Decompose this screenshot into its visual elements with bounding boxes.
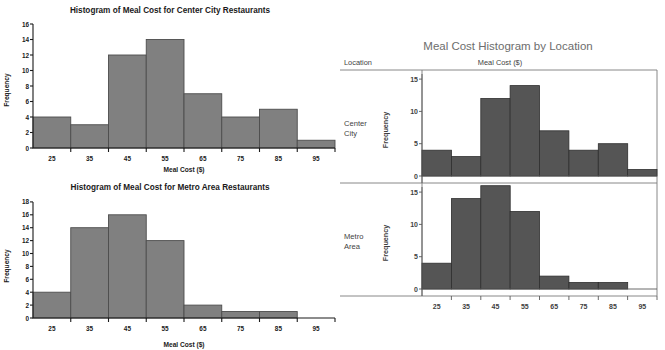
- bar-65: [540, 276, 569, 289]
- y-tick-labels: 0 2 4 6 8 10 12 14 16: [22, 21, 30, 152]
- y-tick-4: 4: [25, 289, 29, 296]
- y-tick-15: 15: [410, 189, 418, 196]
- bar-25: [422, 263, 451, 289]
- x-tick-85: 85: [275, 155, 283, 162]
- bar-95: [297, 140, 335, 148]
- x-tick-85: 85: [609, 303, 617, 310]
- chart-paneled-by-location: Meal Cost Histogram by Location Location…: [340, 30, 665, 315]
- bar-55: [146, 241, 184, 318]
- bar-45: [109, 215, 147, 318]
- y-axis-label: Frequency: [3, 249, 11, 283]
- bar-55: [146, 40, 184, 149]
- chart-title: Histogram of Meal Cost for Center City R…: [70, 6, 271, 15]
- bar-65: [184, 305, 222, 318]
- bar-95: [628, 170, 657, 177]
- y-axis-label: Frequency: [381, 225, 390, 261]
- y-tick-0: 0: [25, 315, 29, 322]
- bar-75: [222, 117, 260, 148]
- y-tick-0: 0: [25, 145, 29, 152]
- x-tick-marks: [71, 148, 335, 152]
- y-tick-8: 8: [25, 263, 29, 270]
- y-tick-6: 6: [25, 98, 29, 105]
- y-tick-0: 0: [414, 286, 418, 293]
- y-tick-16: 16: [22, 21, 30, 28]
- bars: [33, 40, 335, 149]
- x-tick-25: 25: [48, 155, 56, 162]
- x-tick-95: 95: [313, 325, 321, 332]
- x-tick-75: 75: [580, 303, 588, 310]
- y-tick-14: 14: [22, 224, 30, 231]
- metro-area-histogram-svg: Histogram of Meal Cost for Metro Area Re…: [0, 178, 340, 350]
- y-tick-10: 10: [22, 250, 30, 257]
- panel-label-line1: Metro: [344, 232, 363, 241]
- y-axis-label: Frequency: [3, 73, 11, 107]
- x-tick-35: 35: [462, 303, 470, 310]
- x-tick-75: 75: [237, 325, 245, 332]
- screenshot-root: Histogram of Meal Cost for Center City R…: [0, 0, 665, 350]
- x-tick-85: 85: [275, 325, 283, 332]
- x-tick-65: 65: [199, 325, 207, 332]
- bar-25: [422, 150, 451, 176]
- y-tick-2: 2: [25, 129, 29, 136]
- x-tick-95: 95: [638, 303, 646, 310]
- y-tick-10: 10: [410, 108, 418, 115]
- bar-85: [598, 283, 627, 290]
- x-tick-75: 75: [237, 155, 245, 162]
- center-city-histogram-svg: Histogram of Meal Cost for Center City R…: [0, 0, 340, 175]
- panel-center-city: Center City Frequency 0 5 10 15: [344, 74, 657, 183]
- x-tick-55: 55: [162, 155, 170, 162]
- bar-25: [33, 292, 71, 318]
- bar-35: [71, 228, 109, 318]
- x-tick-45: 45: [492, 303, 500, 310]
- bars: [33, 215, 297, 318]
- y-tick-14: 14: [22, 36, 30, 43]
- row-header-label: Location: [344, 58, 372, 67]
- x-tick-labels: 25 35 45 55 65 75 85 95: [48, 155, 320, 162]
- x-tick-65: 65: [550, 303, 558, 310]
- bar-45: [481, 99, 510, 177]
- y-tick-12: 12: [22, 52, 30, 59]
- x-tick-marks: [71, 318, 335, 322]
- x-tick-45: 45: [124, 155, 132, 162]
- y-tick-16: 16: [22, 211, 30, 218]
- panel-label-line2: Area: [344, 242, 361, 251]
- x-tick-labels: 25 35 45 55 65 75 85 95: [433, 303, 646, 310]
- column-header-label: Meal Cost ($): [478, 58, 522, 67]
- chart-title: Meal Cost Histogram by Location: [423, 40, 592, 52]
- bar-35: [71, 125, 109, 148]
- y-axis-label: Frequency: [381, 112, 390, 148]
- x-tick-25: 25: [48, 325, 56, 332]
- x-tick-55: 55: [521, 303, 529, 310]
- y-tick-8: 8: [25, 83, 29, 90]
- chart-title: Histogram of Meal Cost for Metro Area Re…: [71, 183, 270, 192]
- bar-35: [451, 199, 480, 289]
- y-tick-2: 2: [25, 302, 29, 309]
- bar-55: [510, 86, 539, 176]
- bar-45: [481, 186, 510, 289]
- panel-label-line2: City: [344, 129, 357, 138]
- bar-75: [569, 283, 598, 290]
- panel-metro-area: Metro Area Frequency 0 5 10 15: [344, 186, 657, 296]
- x-tick-35: 35: [86, 325, 94, 332]
- paneled-histogram-svg: Meal Cost Histogram by Location Location…: [340, 30, 665, 315]
- x-tick-marks: [451, 296, 657, 300]
- y-tick-5: 5: [414, 253, 418, 260]
- bar-75: [569, 150, 598, 176]
- y-tick-0: 0: [414, 173, 418, 180]
- x-axis-label: Meal Cost ($): [163, 166, 204, 174]
- x-tick-65: 65: [199, 155, 207, 162]
- x-tick-35: 35: [86, 155, 94, 162]
- y-tick-12: 12: [22, 237, 30, 244]
- y-tick-15: 15: [410, 76, 418, 83]
- panel-label-line1: Center: [344, 119, 367, 128]
- bar-35: [451, 157, 480, 176]
- x-tick-95: 95: [313, 155, 321, 162]
- bar-25: [33, 117, 71, 148]
- y-tick-18: 18: [22, 198, 30, 205]
- y-tick-6: 6: [25, 276, 29, 283]
- x-tick-55: 55: [162, 325, 170, 332]
- bar-85: [598, 144, 627, 176]
- bar-45: [109, 55, 147, 148]
- bar-55: [510, 212, 539, 290]
- y-tick-5: 5: [414, 140, 418, 147]
